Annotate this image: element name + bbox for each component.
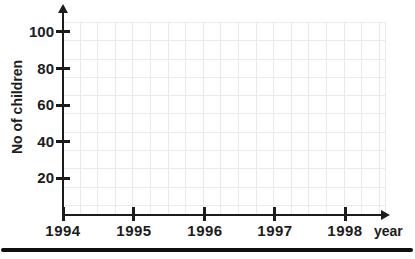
empty-year-children-graph: 100 80 60 40 20 1994 1995 1996 1997 1998… [0, 0, 415, 259]
y-tick-mark [56, 67, 70, 70]
y-axis [62, 12, 64, 221]
y-axis-arrow-icon [58, 4, 68, 13]
x-tick-label: 1997 [245, 222, 305, 240]
x-axis-arrow-icon [381, 210, 390, 220]
y-tick-mark [56, 104, 70, 107]
x-tick-label: 1996 [175, 222, 235, 240]
y-tick-mark [56, 140, 70, 143]
x-tick-mark [62, 207, 65, 221]
y-tick-label: 100 [12, 23, 54, 41]
y-tick-mark [56, 30, 70, 33]
x-tick-mark [132, 207, 135, 221]
x-tick-label: 1994 [33, 222, 93, 240]
x-tick-label: 1998 [315, 222, 375, 240]
x-tick-mark [273, 207, 276, 221]
y-tick-mark [56, 177, 70, 180]
y-tick-label: 20 [12, 169, 54, 187]
grid-paper [63, 22, 386, 216]
x-axis [63, 214, 381, 216]
x-axis-title: year [374, 222, 414, 240]
x-tick-label: 1995 [104, 222, 164, 240]
x-tick-mark [203, 207, 206, 221]
bottom-rule [1, 248, 413, 252]
y-axis-title: No of children [8, 52, 26, 162]
x-tick-mark [344, 207, 347, 221]
